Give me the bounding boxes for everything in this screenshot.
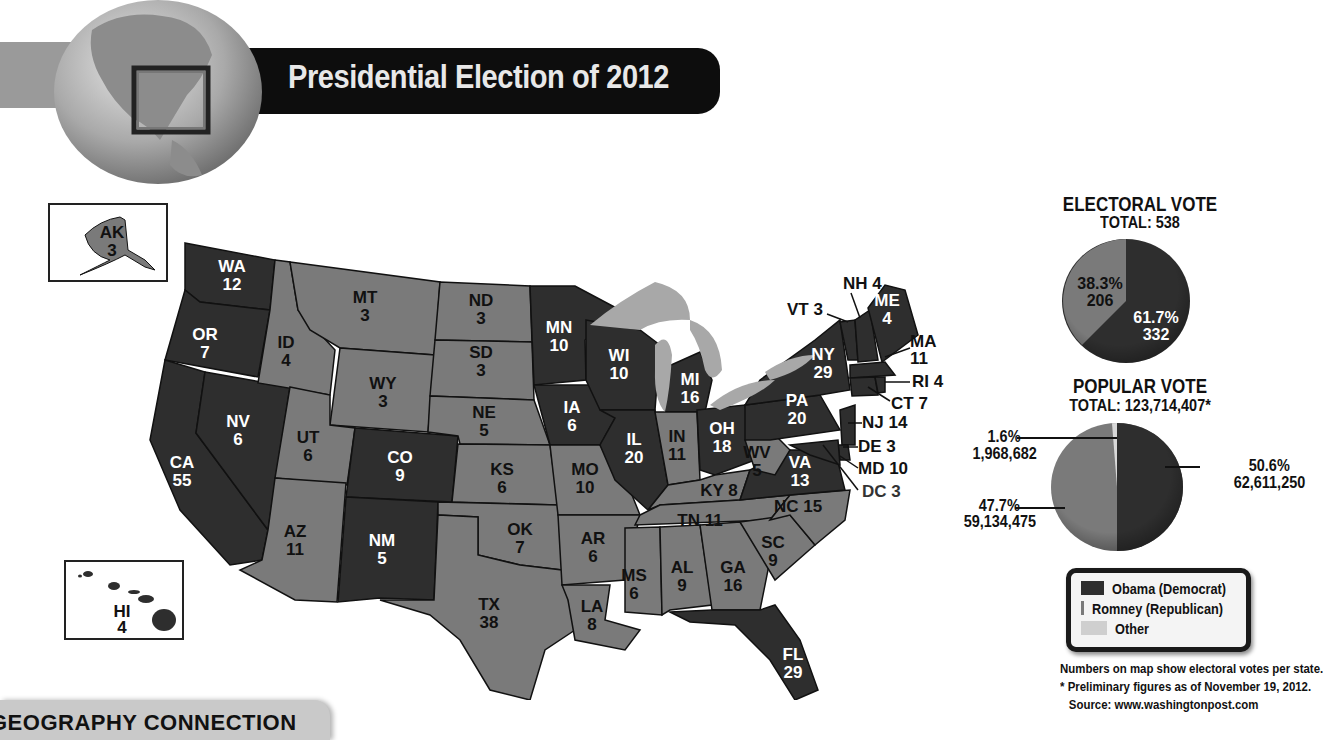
label-PA: PA bbox=[786, 391, 808, 410]
label-CO: CO bbox=[387, 448, 413, 467]
label-AZ: AZ bbox=[284, 522, 307, 541]
svg-text:3: 3 bbox=[378, 392, 387, 411]
label-OH: OH bbox=[709, 419, 735, 438]
svg-text:55: 55 bbox=[173, 471, 192, 490]
label-AK: AK bbox=[100, 223, 125, 242]
callout-NH: NH 4 bbox=[843, 274, 882, 293]
label-MO: MO bbox=[571, 460, 598, 479]
label-NM: NM bbox=[369, 531, 395, 550]
svg-text:9: 9 bbox=[677, 576, 686, 595]
label-OK: OK bbox=[507, 520, 533, 539]
svg-text:3: 3 bbox=[476, 361, 485, 380]
label-MS: MS bbox=[621, 566, 647, 585]
svg-text:6: 6 bbox=[497, 478, 506, 497]
label-IA: IA bbox=[564, 398, 581, 417]
label-TX: TX bbox=[478, 595, 500, 614]
callout-RI: RI 4 bbox=[912, 372, 944, 391]
callout-MD: MD 10 bbox=[858, 459, 908, 478]
callout-VT: VT 3 bbox=[787, 300, 823, 319]
label-NE: NE bbox=[472, 403, 496, 422]
svg-text:7: 7 bbox=[515, 538, 524, 557]
svg-text:4: 4 bbox=[882, 309, 892, 328]
label-ID: ID bbox=[278, 333, 295, 352]
svg-text:5: 5 bbox=[752, 461, 761, 480]
label-VA: VA bbox=[789, 453, 811, 472]
label-ME: ME bbox=[874, 291, 900, 310]
label-KY: KY 8 bbox=[700, 481, 738, 500]
svg-text:11: 11 bbox=[668, 445, 686, 464]
label-SD: SD bbox=[469, 343, 493, 362]
alaska-shape: AK 3 bbox=[50, 205, 166, 280]
alaska-inset: AK 3 bbox=[48, 203, 168, 282]
svg-text:38: 38 bbox=[480, 613, 499, 632]
svg-text:16: 16 bbox=[724, 576, 743, 595]
label-WA: WA bbox=[218, 257, 245, 276]
svg-text:29: 29 bbox=[784, 663, 803, 682]
svg-text:8: 8 bbox=[587, 615, 596, 634]
label-NC: NC 15 bbox=[774, 497, 822, 516]
svg-text:16: 16 bbox=[681, 388, 700, 407]
legend-swatch-democrat bbox=[1081, 581, 1104, 595]
electoral-vote-total: TOTAL: 538 bbox=[1059, 213, 1221, 233]
electoral-obama-pct: 61.7% bbox=[1133, 309, 1178, 326]
svg-text:10: 10 bbox=[576, 478, 595, 497]
svg-text:18: 18 bbox=[713, 437, 732, 456]
label-CA: CA bbox=[170, 453, 195, 472]
label-UT: UT bbox=[297, 428, 320, 447]
svg-text:3: 3 bbox=[476, 309, 485, 328]
legend-label-democrat: Obama (Democrat) bbox=[1112, 580, 1226, 597]
legend: Obama (Democrat) Romney (Republican) Oth… bbox=[1066, 568, 1251, 652]
label-MN: MN bbox=[546, 318, 572, 337]
legend-swatch-other bbox=[1081, 621, 1107, 635]
label-FL: FL bbox=[783, 645, 804, 664]
popular-other-votes: 1,968,682 bbox=[943, 444, 1037, 464]
state-MA bbox=[850, 362, 895, 378]
svg-text:20: 20 bbox=[788, 409, 807, 428]
label-NY: NY bbox=[811, 345, 835, 364]
label-MT: MT bbox=[353, 288, 378, 307]
electoral-romney-pct: 38.3% bbox=[1077, 275, 1122, 292]
popular-obama-votes: 62,611,250 bbox=[1195, 473, 1306, 493]
label-GA: GA bbox=[720, 558, 746, 577]
label-LA: LA bbox=[581, 597, 604, 616]
electoral-romney-votes: 206 bbox=[1087, 292, 1114, 309]
label-ND: ND bbox=[469, 291, 494, 310]
svg-text:7: 7 bbox=[200, 343, 209, 362]
svg-text:4: 4 bbox=[281, 351, 291, 370]
svg-text:6: 6 bbox=[303, 446, 312, 465]
callout-DC: DC 3 bbox=[862, 482, 901, 501]
state-CT bbox=[850, 377, 878, 396]
label-MI: MI bbox=[681, 370, 700, 389]
label-WY: WY bbox=[369, 374, 397, 393]
callout-CT: CT 7 bbox=[891, 394, 928, 413]
svg-text:5: 5 bbox=[479, 421, 488, 440]
hawaii-shape: HI 4 bbox=[66, 562, 182, 638]
geography-connection-label: GEOGRAPHY CONNECTION bbox=[0, 710, 297, 736]
label-WV: WV bbox=[743, 443, 771, 462]
electoral-vote-pie: 38.3% 206 61.7% 332 bbox=[1060, 237, 1200, 367]
hawaii-inset: HI 4 bbox=[64, 560, 184, 640]
svg-text:29: 29 bbox=[814, 363, 833, 382]
label-HI-votes: 4 bbox=[117, 618, 127, 637]
label-AL: AL bbox=[671, 558, 694, 577]
svg-text:20: 20 bbox=[625, 448, 644, 467]
label-IL: IL bbox=[626, 430, 641, 449]
label-IN: IN bbox=[669, 427, 686, 446]
svg-text:3: 3 bbox=[360, 306, 369, 325]
legend-item-republican: Romney (Republican) bbox=[1081, 598, 1246, 618]
svg-text:10: 10 bbox=[610, 364, 629, 383]
legend-item-other: Other bbox=[1081, 618, 1246, 638]
svg-text:10: 10 bbox=[550, 336, 569, 355]
label-KS: KS bbox=[490, 460, 514, 479]
svg-text:12: 12 bbox=[223, 275, 242, 294]
label-OR: OR bbox=[192, 325, 218, 344]
note-line-1: Numbers on map show electoral votes per … bbox=[1060, 660, 1323, 678]
note-source: Source: www.washingtonpost.com bbox=[1069, 696, 1323, 714]
svg-text:6: 6 bbox=[233, 430, 242, 449]
state-NJ bbox=[840, 405, 855, 445]
svg-text:9: 9 bbox=[768, 551, 777, 570]
svg-text:5: 5 bbox=[377, 549, 386, 568]
callout-MA-votes: 11 bbox=[910, 349, 928, 368]
label-SC: SC bbox=[761, 533, 785, 552]
svg-text:9: 9 bbox=[395, 466, 404, 485]
